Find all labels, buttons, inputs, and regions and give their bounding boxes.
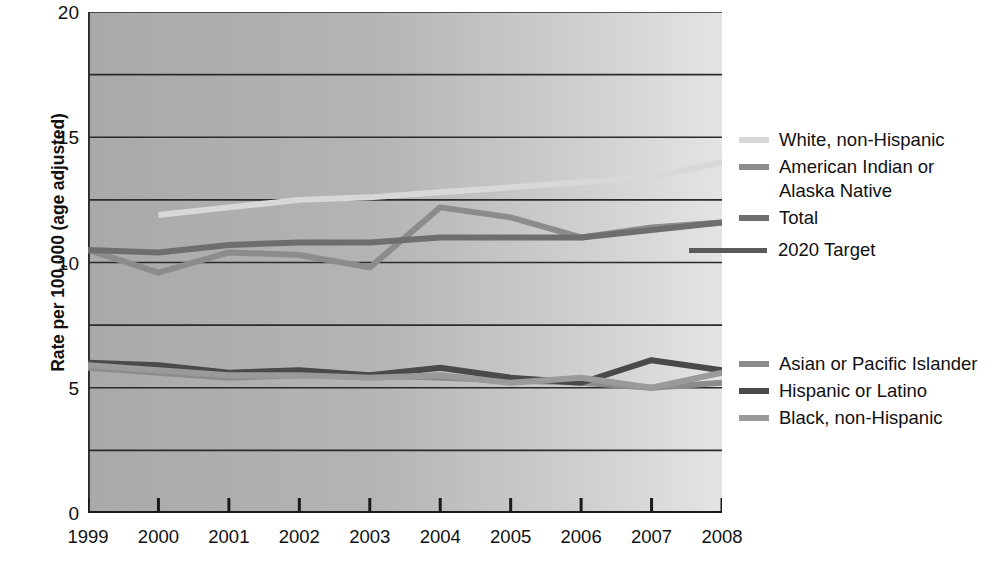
chart-svg bbox=[88, 12, 722, 513]
legend-color-swatch bbox=[739, 137, 769, 143]
x-tick-label: 2002 bbox=[264, 527, 334, 547]
legend-item[interactable]: Total bbox=[739, 206, 997, 230]
x-tick-label: 2004 bbox=[405, 527, 475, 547]
legend-color-swatch bbox=[739, 415, 769, 421]
x-tick-label: 2007 bbox=[617, 527, 687, 547]
y-tick-label: 20 bbox=[33, 3, 79, 22]
legend-item-label: Black, non-Hispanic bbox=[779, 406, 943, 430]
legend-item[interactable]: Hispanic or Latino bbox=[739, 379, 997, 403]
x-tick-label: 2000 bbox=[123, 527, 193, 547]
plot-area bbox=[88, 12, 722, 513]
legend-item-label: Total bbox=[779, 206, 818, 230]
legend-item[interactable]: Asian or Pacific Islander bbox=[739, 352, 997, 376]
x-tick-label: 2008 bbox=[687, 527, 757, 547]
y-tick-label: 0 bbox=[33, 504, 79, 523]
y-tick-label: 10 bbox=[33, 254, 79, 273]
y-axis-tick-labels: 05101520 bbox=[33, 0, 79, 567]
legend-color-swatch bbox=[739, 164, 769, 170]
legend-item-label: White, non-Hispanic bbox=[779, 128, 945, 152]
legend-color-swatch bbox=[739, 215, 769, 221]
legend-item-label: 2020 Target bbox=[778, 238, 875, 262]
legend-item-label: Asian or Pacific Islander bbox=[779, 352, 977, 376]
legend-item-label: Hispanic or Latino bbox=[779, 379, 927, 403]
legend-item[interactable]: White, non-Hispanic bbox=[739, 128, 997, 152]
legend-lower: Asian or Pacific IslanderHispanic or Lat… bbox=[739, 352, 997, 433]
x-axis-tick-labels: 1999200020012002200320042005200620072008 bbox=[88, 527, 728, 553]
legend-color-swatch bbox=[689, 248, 767, 253]
legend-color-swatch bbox=[739, 361, 769, 367]
x-tick-label: 1999 bbox=[53, 527, 123, 547]
x-tick-label: 2001 bbox=[194, 527, 264, 547]
x-tick-label: 2003 bbox=[335, 527, 405, 547]
x-tick-label: 2005 bbox=[476, 527, 546, 547]
legend-upper: White, non-HispanicAmerican Indian or Al… bbox=[739, 128, 997, 262]
legend-color-swatch bbox=[739, 388, 769, 394]
legend-item[interactable]: Black, non-Hispanic bbox=[739, 406, 997, 430]
x-tick-label: 2006 bbox=[546, 527, 616, 547]
legend-item-2020-target[interactable]: 2020 Target bbox=[689, 238, 997, 262]
legend-item[interactable]: American Indian or Alaska Native bbox=[739, 155, 997, 203]
y-tick-label: 15 bbox=[33, 128, 79, 147]
figure: Rate per 100,000 (age adjusted) 05101520… bbox=[0, 0, 999, 567]
y-tick-label: 5 bbox=[33, 379, 79, 398]
legend-item-label: American Indian or Alaska Native bbox=[779, 155, 934, 203]
